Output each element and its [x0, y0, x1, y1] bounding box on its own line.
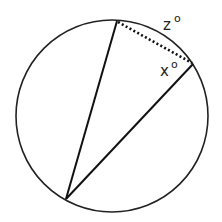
angle-variable: x [160, 62, 169, 80]
angle-label: x o [160, 58, 178, 80]
circle-diagram: z o x o [0, 0, 222, 222]
circle [16, 20, 208, 212]
arc-variable: z [163, 16, 171, 34]
arc-label: z o [163, 12, 181, 34]
arc-degree-symbol: o [174, 12, 181, 25]
angle-degree-symbol: o [171, 58, 178, 71]
dotted-chord [118, 22, 192, 63]
